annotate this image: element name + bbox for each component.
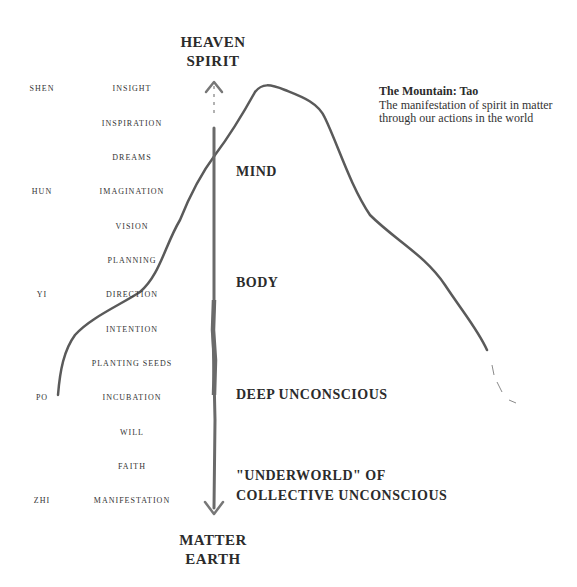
stage-direction: DIRECTION — [72, 290, 192, 299]
spirit-zhi: ZHI — [22, 496, 62, 505]
stage-incubation: INCUBATION — [72, 393, 192, 402]
stage-inspiration: INSPIRATION — [72, 119, 192, 128]
layer-deep-unconscious: DEEP UNCONSCIOUS — [236, 385, 388, 405]
stage-planning: PLANNING — [72, 256, 192, 265]
top-pole-label: HEAVEN SPIRIT — [153, 33, 273, 71]
stage-planting-seeds: PLANTING SEEDS — [72, 359, 192, 368]
mountain-shape — [58, 85, 485, 420]
layer-mind: MIND — [236, 162, 277, 182]
layer-body: BODY — [236, 273, 278, 293]
stage-intention: INTENTION — [72, 325, 192, 334]
stage-dreams: DREAMS — [72, 153, 192, 162]
stage-faith: FAITH — [72, 462, 192, 471]
up-arrow-icon — [206, 82, 222, 115]
bottom-pole-label: MATTER EARTH — [153, 531, 273, 569]
stage-manifestation: MANIFESTATION — [72, 496, 192, 505]
spirit-label: SPIRIT — [153, 52, 273, 71]
underworld-line1: "UNDERWORLD" OF — [236, 466, 447, 486]
stage-insight: INSIGHT — [72, 84, 192, 93]
spirit-shen: SHEN — [22, 84, 62, 93]
heaven-label: HEAVEN — [153, 33, 273, 52]
legend: The Mountain: Tao The manifestation of s… — [379, 84, 569, 125]
spirit-hun: HUN — [22, 187, 62, 196]
stage-will: WILL — [72, 428, 192, 437]
spirit-po: PO — [22, 393, 62, 402]
layer-underworld: "UNDERWORLD" OF COLLECTIVE UNCONSCIOUS — [236, 466, 447, 506]
stage-imagination: IMAGINATION — [72, 187, 192, 196]
earth-label: EARTH — [153, 550, 273, 569]
stage-vision: VISION — [72, 222, 192, 231]
spirit-yi: YI — [22, 290, 62, 299]
legend-description: The manifestation of spirit in matter th… — [379, 99, 569, 125]
legend-title: The Mountain: Tao — [379, 84, 569, 99]
underworld-line2: COLLECTIVE UNCONSCIOUS — [236, 486, 447, 506]
matter-label: MATTER — [153, 531, 273, 550]
